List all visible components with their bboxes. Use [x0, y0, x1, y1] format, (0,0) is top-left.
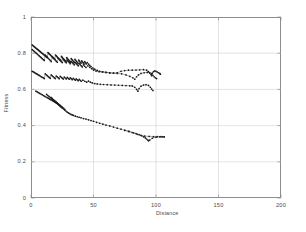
y-tick-label: 0.2 — [10, 158, 26, 164]
y-axis-label: Fitness — [3, 83, 9, 123]
x-tick-label: 100 — [146, 202, 166, 208]
chart-canvas — [0, 0, 306, 232]
y-tick-label: 0 — [10, 195, 26, 201]
x-tick-label: 150 — [209, 202, 229, 208]
x-tick-label: 0 — [21, 202, 41, 208]
figure-container: 00.20.40.60.81 050100150200 Fitness Dist… — [0, 0, 306, 232]
y-tick-label: 0.8 — [10, 50, 26, 56]
x-axis-label: Distance — [156, 210, 196, 216]
x-tick-label: 200 — [271, 202, 291, 208]
y-tick-label: 1 — [10, 14, 26, 20]
series-line-2 — [32, 71, 153, 91]
x-tick-label: 50 — [84, 202, 104, 208]
data-series-group — [31, 44, 165, 141]
y-tick-label: 0.6 — [10, 86, 26, 92]
series-line-3 — [36, 91, 164, 141]
grid-lines — [31, 17, 281, 198]
y-tick-label: 0.4 — [10, 122, 26, 128]
